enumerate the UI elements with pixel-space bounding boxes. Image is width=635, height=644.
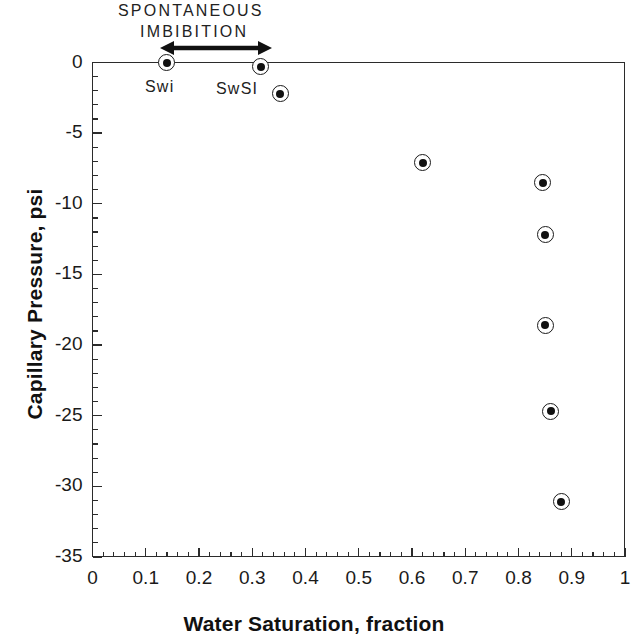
data-point-marker <box>537 226 554 243</box>
y-axis-minor-tick <box>93 246 98 247</box>
x-axis-tick-label: 0.8 <box>489 567 549 589</box>
x-axis-tick <box>411 548 412 557</box>
x-axis-minor-tick <box>539 552 540 557</box>
y-axis-minor-tick <box>93 387 98 388</box>
x-axis-tick-label: 0.3 <box>222 567 282 589</box>
point-label-swi: Swi <box>145 78 174 96</box>
x-axis-minor-tick <box>379 552 380 557</box>
y-axis-minor-tick <box>93 316 98 317</box>
x-axis-minor-tick <box>497 552 498 557</box>
y-axis-tick <box>93 203 102 204</box>
y-axis-tick <box>93 344 102 345</box>
y-axis-minor-tick <box>93 118 98 119</box>
x-axis-tick <box>465 548 466 557</box>
y-axis-minor-tick <box>93 161 98 162</box>
y-axis-minor-tick <box>93 528 98 529</box>
x-axis-tick-label: 0.2 <box>169 567 229 589</box>
x-axis-tick <box>305 548 306 557</box>
x-axis-minor-tick <box>433 552 434 557</box>
x-axis-minor-tick <box>284 552 285 557</box>
x-axis-minor-tick <box>603 552 604 557</box>
y-axis-minor-tick <box>93 302 98 303</box>
x-axis-tick-label: 0.6 <box>382 567 442 589</box>
x-axis-minor-tick <box>614 552 615 557</box>
x-axis-minor-tick <box>592 552 593 557</box>
x-axis-tick <box>145 548 146 557</box>
y-axis-minor-tick <box>93 104 98 105</box>
x-axis-tick-label: 0.1 <box>116 567 176 589</box>
x-axis-minor-tick <box>262 552 263 557</box>
x-axis-minor-tick <box>294 552 295 557</box>
y-axis-minor-tick <box>93 217 98 218</box>
x-axis-minor-tick <box>273 552 274 557</box>
x-axis-tick-label: 0 <box>63 567 123 589</box>
x-axis-minor-tick <box>454 552 455 557</box>
y-axis-minor-tick <box>93 373 98 374</box>
y-axis-minor-tick <box>93 443 98 444</box>
x-axis-tick <box>624 548 625 557</box>
x-axis-tick-label: 1 <box>595 567 635 589</box>
y-axis-minor-tick <box>93 330 98 331</box>
y-axis-minor-tick <box>93 401 98 402</box>
y-axis-title: Capillary Pressure, psi <box>23 139 47 469</box>
y-axis-minor-tick <box>93 260 98 261</box>
x-axis-minor-tick <box>422 552 423 557</box>
x-axis-minor-tick <box>326 552 327 557</box>
x-axis-minor-tick <box>209 552 210 557</box>
x-axis-tick-label: 0.5 <box>329 567 389 589</box>
x-axis-minor-tick <box>177 552 178 557</box>
data-point-marker <box>537 317 554 334</box>
x-axis-minor-tick <box>390 552 391 557</box>
y-axis-minor-tick <box>93 147 98 148</box>
data-point-marker <box>272 85 289 102</box>
x-axis-minor-tick <box>230 552 231 557</box>
y-axis-tick <box>93 486 102 487</box>
x-axis-tick <box>358 548 359 557</box>
x-axis-minor-tick <box>188 552 189 557</box>
x-axis-tick-label: 0.9 <box>542 567 602 589</box>
y-axis-minor-tick <box>93 500 98 501</box>
y-axis-tick <box>93 415 102 416</box>
y-axis-tick <box>93 556 102 557</box>
x-axis-minor-tick <box>348 552 349 557</box>
x-axis-tick <box>252 548 253 557</box>
x-axis-minor-tick <box>582 552 583 557</box>
y-axis-minor-tick <box>93 90 98 91</box>
y-axis-tick <box>93 62 102 63</box>
x-axis-tick-label: 0.7 <box>435 567 495 589</box>
x-axis-minor-tick <box>369 552 370 557</box>
x-axis-minor-tick <box>486 552 487 557</box>
x-axis-minor-tick <box>124 552 125 557</box>
y-axis-tick <box>93 274 102 275</box>
y-axis-tick-label: -35 <box>23 545 83 567</box>
y-axis-tick-label: 0 <box>23 51 83 73</box>
plot-area-frame <box>92 62 625 557</box>
x-axis-tick-label: 0.4 <box>276 567 336 589</box>
y-axis-minor-tick <box>93 189 98 190</box>
x-axis-minor-tick <box>561 552 562 557</box>
x-axis-minor-tick <box>241 552 242 557</box>
x-axis-minor-tick <box>507 552 508 557</box>
y-axis-minor-tick <box>93 288 98 289</box>
y-axis-minor-tick <box>93 175 98 176</box>
y-axis-minor-tick <box>93 359 98 360</box>
y-axis-minor-tick <box>93 514 98 515</box>
y-axis-minor-tick <box>93 542 98 543</box>
y-axis-minor-tick <box>93 231 98 232</box>
x-axis-minor-tick <box>156 552 157 557</box>
x-axis-tick <box>198 548 199 557</box>
x-axis-minor-tick <box>113 552 114 557</box>
x-axis-minor-tick <box>103 552 104 557</box>
x-axis-minor-tick <box>475 552 476 557</box>
x-axis-minor-tick <box>220 552 221 557</box>
y-axis-tick-label: -30 <box>23 474 83 496</box>
x-axis-title: Water Saturation, fraction <box>0 612 628 636</box>
y-axis-minor-tick <box>93 76 98 77</box>
y-axis-minor-tick <box>93 472 98 473</box>
annotation-title-line1: SPONTANEOUS <box>118 2 264 20</box>
y-axis-minor-tick <box>93 429 98 430</box>
x-axis-minor-tick <box>135 552 136 557</box>
y-axis-minor-tick <box>93 458 98 459</box>
x-axis-minor-tick <box>316 552 317 557</box>
